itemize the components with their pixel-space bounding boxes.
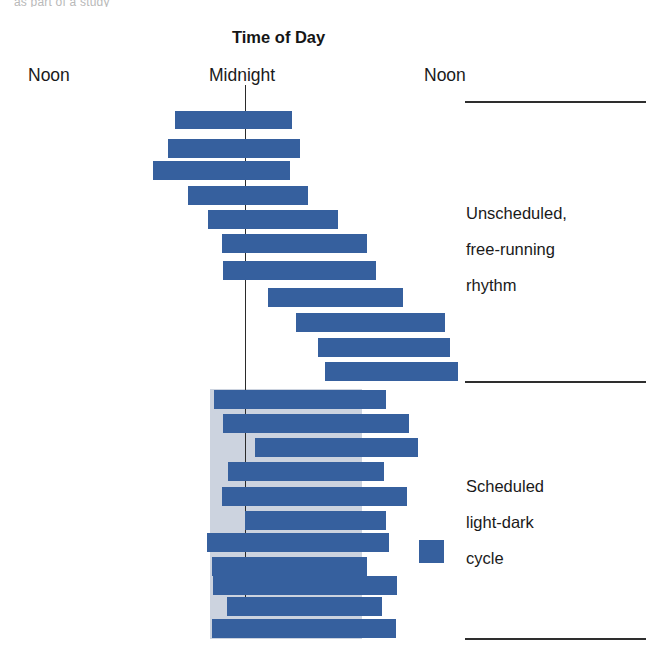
activity-bar-day-11	[325, 362, 458, 381]
separator-middle	[465, 381, 646, 383]
activity-bar-day-7	[223, 261, 376, 280]
light-dark-note-line-3: cycle	[466, 543, 504, 573]
light-dark-note-line-2: light-dark	[466, 507, 534, 537]
axis-label-midnight: Midnight	[209, 65, 275, 86]
activity-bar-day-21	[227, 597, 382, 616]
actogram-figure: as part of a study Time of Day NoonMidni…	[0, 0, 656, 666]
free-running-note-line-1: Unscheduled,	[466, 198, 567, 228]
activity-bar-day-5	[208, 210, 338, 229]
activity-bar-day-16	[222, 487, 407, 506]
separator-top	[465, 101, 646, 103]
activity-bar-day-6	[222, 234, 367, 253]
activity-bar-day-9	[296, 313, 445, 332]
light-dark-note-line-1: Scheduled	[466, 471, 544, 501]
activity-bar-day-2	[168, 139, 300, 158]
activity-bar-day-4	[188, 186, 308, 205]
activity-bar-day-22	[212, 619, 396, 638]
activity-bar-day-15	[228, 462, 384, 481]
activity-bar-day-1	[175, 111, 292, 129]
axis-label-noon-right: Noon	[424, 65, 466, 86]
activity-bar-day-12	[214, 390, 386, 409]
activity-bar-day-20	[213, 576, 397, 595]
activity-bar-day-10	[318, 338, 450, 357]
activity-bar-day-13	[223, 414, 409, 433]
activity-bar-day-3	[153, 161, 290, 180]
activity-bar-day-8	[268, 288, 403, 307]
activity-bar-day-19	[212, 557, 367, 576]
actogram-plot-area: NoonMidnightNoon	[0, 0, 656, 666]
separator-bottom	[465, 638, 646, 640]
activity-bar-day-17	[245, 511, 386, 530]
legend-swatch-activity	[419, 540, 444, 563]
free-running-note-line-3: rhythm	[466, 270, 516, 300]
axis-label-noon-left: Noon	[28, 65, 70, 86]
free-running-note-line-2: free-running	[466, 234, 555, 264]
activity-bar-day-14	[255, 438, 418, 457]
activity-bar-day-18	[207, 533, 389, 552]
